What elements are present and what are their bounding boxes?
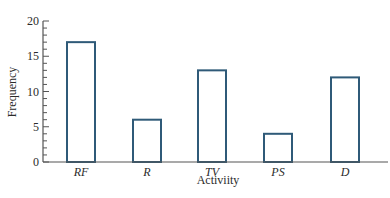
x-tick-label: R <box>142 165 151 179</box>
y-axis-title: Frequency <box>5 67 19 118</box>
y-tick-label: 0 <box>33 155 39 169</box>
y-tick-label: 5 <box>33 120 39 134</box>
x-axis-title: Activiity <box>197 173 240 187</box>
x-tick-label: PS <box>270 165 284 179</box>
bar-d <box>331 77 359 162</box>
bar-tv <box>198 70 226 162</box>
bar-rf <box>67 42 95 162</box>
bars <box>67 42 359 162</box>
x-tick-label: RF <box>73 165 89 179</box>
x-tick-label: D <box>340 165 350 179</box>
bar-r <box>133 120 161 162</box>
bar-chart: Frequency 05101520 RFRTVPSD Activiity <box>0 0 390 198</box>
bar-ps <box>264 134 292 162</box>
y-tick-label: 20 <box>27 14 39 28</box>
y-tick-label: 15 <box>27 49 39 63</box>
y-axis: 05101520 <box>27 14 49 169</box>
y-tick-label: 10 <box>27 85 39 99</box>
